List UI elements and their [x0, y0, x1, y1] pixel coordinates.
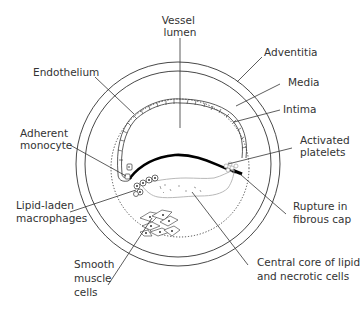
label-endothelium: Endothelium [33, 66, 99, 78]
label-vessel-lumen: Vessel lumen [162, 14, 199, 38]
leader-lines [70, 38, 292, 285]
endothelium-leader [95, 77, 134, 114]
artery-plaque-diagram: Vessel lumen Adventitia Media Intima End… [0, 0, 364, 313]
label-central-core: Central core of lipid and necrotic cells [257, 256, 364, 282]
label-adherent-monocyte: Adherent monocyte [20, 127, 72, 151]
adventitia-leader [237, 57, 262, 82]
fibrous-cap [130, 155, 235, 178]
label-rupture-in-fibrous-cap: Rupture in fibrous cap [293, 200, 351, 225]
vessel-wall [76, 62, 280, 266]
activated-platelets-leader [228, 148, 292, 164]
label-media: Media [288, 76, 320, 88]
label-intima: Intima [283, 103, 316, 115]
lipid-core [140, 170, 234, 198]
label-lipid-laden-macrophages: Lipid-laden macrophages [16, 199, 87, 224]
necrotic-debris [160, 184, 201, 193]
intima-leader [234, 110, 280, 122]
adventitia-outer-circle [76, 62, 280, 266]
label-activated-platelets: Activated platelets [300, 134, 353, 158]
label-adventitia: Adventitia [264, 46, 318, 58]
label-smooth-muscle-cells: Smooth muscle cells [74, 258, 118, 298]
media-leader [236, 84, 280, 106]
